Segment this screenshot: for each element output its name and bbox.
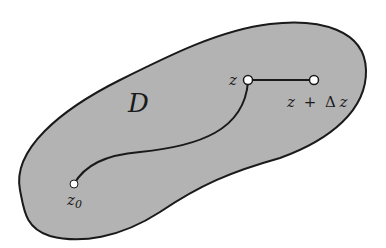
label-plus: + (304, 93, 317, 111)
point-z (244, 76, 253, 85)
diagram-canvas: D z z + Δ z z0 (0, 0, 386, 248)
label-z0-base: z (66, 191, 75, 209)
label-z0-sub: 0 (75, 198, 82, 211)
label-z2-part: z (339, 93, 348, 111)
label-z-plus-dz: z + Δ z (286, 93, 348, 111)
point-z0 (70, 180, 78, 188)
region-label: D (127, 88, 149, 118)
domain-diagram: D z z + Δ z z0 (0, 0, 386, 248)
label-z-part: z (286, 93, 295, 111)
point-z-plus-dz (310, 76, 319, 85)
label-delta: Δ (325, 93, 336, 111)
label-z: z (228, 71, 237, 89)
